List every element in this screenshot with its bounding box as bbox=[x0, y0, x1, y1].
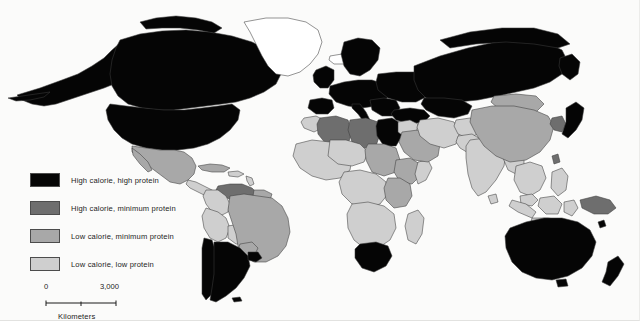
scale-bar-max-label: 3,000 bbox=[100, 282, 119, 291]
region-pacific-islands bbox=[598, 220, 606, 228]
scale-bar-numbers: 0 3,000 bbox=[44, 282, 174, 293]
region-indochina bbox=[514, 162, 546, 196]
legend-item-high-cal-high-prot: High calorie, high protein bbox=[30, 170, 230, 190]
region-scandinavia bbox=[341, 38, 380, 76]
region-philippines bbox=[551, 168, 568, 196]
scale-bar-min-label: 0 bbox=[44, 282, 48, 291]
region-japan bbox=[562, 102, 584, 138]
world-map-figure: .ct { stroke: #3d3d3d; stroke-width: 0.5… bbox=[0, 0, 640, 321]
region-group-oceania bbox=[505, 218, 624, 287]
legend-swatch-low-cal-low-prot bbox=[30, 257, 60, 271]
region-tasmania bbox=[556, 279, 568, 287]
map-legend: High calorie, high protein High calorie,… bbox=[30, 170, 230, 282]
region-madagascar bbox=[405, 210, 424, 244]
legend-label-high-cal-min-prot: High calorie, minimum protein bbox=[71, 204, 176, 213]
region-falklands bbox=[232, 297, 242, 302]
region-lesser-antilles bbox=[246, 176, 254, 186]
legend-label-low-cal-min-prot: Low calorie, minimum protein bbox=[71, 232, 174, 241]
legend-swatch-high-cal-high-prot bbox=[30, 173, 60, 187]
legend-item-low-cal-min-prot: Low calorie, minimum protein bbox=[30, 226, 230, 246]
legend-swatch-high-cal-min-prot bbox=[30, 201, 60, 215]
legend-item-high-cal-min-prot: High calorie, minimum protein bbox=[30, 198, 230, 218]
legend-label-low-cal-low-prot: Low calorie, low protein bbox=[71, 260, 154, 269]
region-british-isles bbox=[313, 66, 334, 88]
region-somalia bbox=[415, 160, 432, 184]
region-south-africa bbox=[355, 242, 392, 272]
map-scale-bar: 0 3,000 Kilometers bbox=[44, 282, 174, 321]
region-new-zealand bbox=[602, 256, 624, 286]
scale-bar-units-caption: Kilometers bbox=[58, 312, 174, 321]
region-russia bbox=[414, 40, 568, 102]
region-east-africa bbox=[384, 178, 412, 208]
legend-swatch-low-cal-min-prot bbox=[30, 229, 60, 243]
region-hispaniola bbox=[228, 171, 244, 177]
region-group-europe bbox=[308, 38, 432, 124]
region-australia bbox=[505, 218, 596, 280]
region-united-states bbox=[106, 104, 240, 150]
region-sri-lanka bbox=[488, 194, 498, 204]
region-southern-africa bbox=[347, 202, 396, 248]
scale-bar-graphic bbox=[44, 300, 134, 307]
region-papua-new-guinea bbox=[580, 196, 616, 214]
region-borneo bbox=[538, 196, 562, 214]
legend-label-high-cal-high-prot: High calorie, high protein bbox=[71, 176, 159, 185]
legend-item-low-cal-low-prot: Low calorie, low protein bbox=[30, 254, 230, 274]
region-taiwan bbox=[552, 154, 560, 164]
region-sulawesi bbox=[564, 200, 578, 216]
region-iberia bbox=[308, 98, 334, 114]
region-kamchatka bbox=[559, 54, 580, 80]
